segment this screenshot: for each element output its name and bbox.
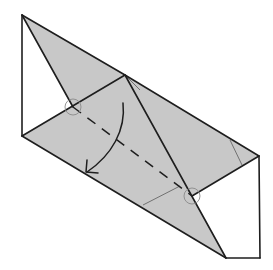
origami-diagram — [0, 0, 273, 270]
paper-shading — [22, 15, 259, 258]
